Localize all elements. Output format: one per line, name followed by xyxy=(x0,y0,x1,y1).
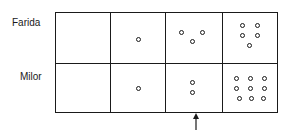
cell-milor-1 xyxy=(56,63,110,113)
circle-icon xyxy=(248,86,253,91)
circle-icon xyxy=(237,96,242,101)
circle-icon xyxy=(240,33,245,38)
circle-icon xyxy=(136,37,141,42)
circle-icon xyxy=(255,23,260,28)
circle-icon xyxy=(234,86,239,91)
cell-milor-3 xyxy=(165,63,222,113)
circle-icon xyxy=(190,90,195,95)
circle-icon xyxy=(249,96,254,101)
circle-icon xyxy=(200,30,205,35)
cell-milor-4 xyxy=(222,63,279,113)
circle-icon xyxy=(255,33,260,38)
circle-icon xyxy=(240,23,245,28)
dot-grid-table xyxy=(55,12,278,113)
circle-icon xyxy=(262,76,267,81)
circle-icon xyxy=(248,76,253,81)
circle-icon xyxy=(262,86,267,91)
row-label-farida: Farida xyxy=(12,17,40,28)
cell-milor-2 xyxy=(110,63,165,113)
circle-icon xyxy=(190,80,195,85)
circle-icon xyxy=(247,43,252,48)
circle-icon xyxy=(190,39,195,44)
row-label-milor: Milor xyxy=(20,71,42,82)
cell-farida-3 xyxy=(165,13,222,63)
circle-icon xyxy=(179,30,184,35)
cell-farida-2 xyxy=(110,13,165,63)
arrow-up-icon xyxy=(191,113,201,130)
circle-icon xyxy=(136,86,141,91)
circle-icon xyxy=(234,76,239,81)
cell-farida-4 xyxy=(222,13,279,63)
cell-farida-1 xyxy=(56,13,110,63)
circle-icon xyxy=(261,96,266,101)
